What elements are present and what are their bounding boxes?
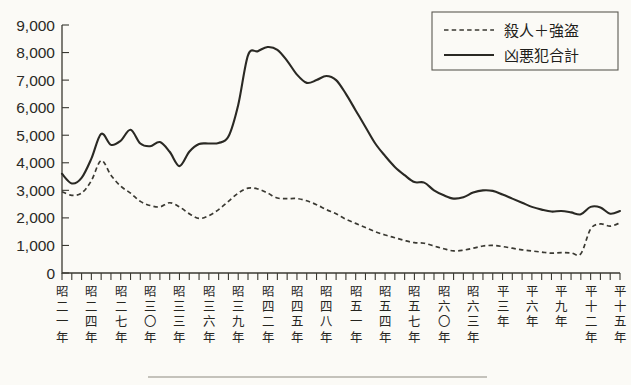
x-axis-tick-label-char: 平 <box>614 284 626 299</box>
x-axis-tick-label-char: 七 <box>115 314 127 329</box>
x-axis-tick-label-char: 年 <box>144 330 156 345</box>
x-axis-tick-label-char: 三 <box>467 314 479 329</box>
x-axis-tick-label: 昭二七年 <box>115 284 127 345</box>
x-axis-tick-label-char: 年 <box>555 314 567 329</box>
x-axis-tick-label-char: 昭 <box>173 284 185 299</box>
x-axis-tick-label: 昭五一年 <box>350 284 362 345</box>
x-axis-tick-label: 昭三六年 <box>203 284 215 345</box>
x-axis-tick-label-char: 四 <box>262 299 274 314</box>
x-axis-tick-label: 昭四五年 <box>291 284 303 345</box>
x-axis-tick-label-char: 年 <box>614 330 626 345</box>
x-axis-tick-label: 昭三九年 <box>232 284 245 345</box>
x-axis-tick-label-char: 二 <box>115 299 127 314</box>
y-axis-tick-label: 5,000 <box>16 127 55 144</box>
x-axis-tick-label-char: 五 <box>291 314 303 329</box>
x-axis-tick-label: 昭五四年 <box>379 284 391 345</box>
x-axis-tick-label-char: 二 <box>85 299 97 314</box>
x-axis-tick-label-char: 三 <box>173 299 185 314</box>
x-axis-tick-label-char: 九 <box>555 299 568 314</box>
x-axis-tick-label: 平十二年 <box>585 284 597 345</box>
x-axis-tick-label-char: 昭 <box>56 284 68 299</box>
y-axis-tick-label: 2,000 <box>16 209 55 226</box>
x-axis-tick-label-char: 昭 <box>320 284 332 299</box>
x-axis-tick-labels: 昭二一年昭二四年昭二七年昭三〇年昭三三年昭三六年昭三九年昭四二年昭四五年昭四八年… <box>56 284 626 345</box>
x-axis-tick-label: 平三年 <box>497 284 509 329</box>
x-axis-tick-label-char: 年 <box>203 330 215 345</box>
chart-legend: 殺人＋強盗凶悪犯合計 <box>432 12 618 70</box>
x-axis-tick-label-char: 年 <box>56 330 68 345</box>
x-axis-tick-label: 昭四二年 <box>262 284 274 345</box>
x-axis-tick-label-char: 年 <box>173 330 185 345</box>
x-axis-tick-label-char: 年 <box>408 330 420 345</box>
x-axis-tick-marks <box>62 273 620 280</box>
x-axis-tick-label: 昭四八年 <box>320 284 333 345</box>
x-axis-tick-label-char: 平 <box>585 284 597 299</box>
x-axis-tick-label-char: 年 <box>320 330 332 345</box>
x-axis-tick-label-char: 五 <box>379 299 391 314</box>
x-axis-tick-label-char: 年 <box>291 330 303 345</box>
x-axis-tick-label-char: 六 <box>526 299 538 314</box>
x-axis-tick-label-char: 昭 <box>467 284 479 299</box>
crime-statistics-line-chart: 9,0008,0007,0006,0005,0004,0003,0002,000… <box>0 0 631 385</box>
y-axis-tick-label: 0 <box>46 265 55 282</box>
x-axis-tick-label: 昭三〇年 <box>144 284 156 345</box>
x-axis-tick-label-char: 昭 <box>438 284 450 299</box>
x-axis-tick-label-char: 昭 <box>350 284 362 299</box>
x-axis-tick-label-char: 平 <box>526 284 538 299</box>
x-axis-tick-label-char: 三 <box>144 299 156 314</box>
x-axis-tick-label-char: 年 <box>379 330 391 345</box>
x-axis-tick-label-char: 〇 <box>438 314 450 329</box>
legend-item-label: 凶悪犯合計 <box>504 47 579 65</box>
y-axis-tick-marks <box>62 25 69 273</box>
x-axis-tick-label: 昭二四年 <box>85 284 97 345</box>
x-axis-tick-label-char: 平 <box>497 284 509 299</box>
x-axis-tick-label-char: 昭 <box>232 284 244 299</box>
x-axis-tick-label-char: 年 <box>350 330 362 345</box>
x-axis-tick-label-char: 六 <box>467 299 479 314</box>
y-axis-tick-labels: 9,0008,0007,0006,0005,0004,0003,0002,000… <box>16 17 55 282</box>
x-axis-tick-label-char: 年 <box>526 314 538 329</box>
x-axis-tick-label-char: 年 <box>115 330 127 345</box>
y-axis-tick-label: 1,000 <box>16 237 55 254</box>
x-axis-tick-label-char: 昭 <box>115 284 127 299</box>
x-axis-tick-label-char: 三 <box>232 299 244 314</box>
legend-item-label: 殺人＋強盗 <box>504 22 579 40</box>
x-axis-tick-label-char: 三 <box>173 314 185 329</box>
x-axis-tick-label: 昭六三年 <box>467 284 479 345</box>
x-axis-tick-label-char: 四 <box>85 314 97 329</box>
x-axis-tick-label-char: 八 <box>320 314 333 329</box>
x-axis-tick-label-char: 昭 <box>379 284 391 299</box>
x-axis-tick-label-char: 六 <box>203 314 215 329</box>
x-axis-tick-label-char: 六 <box>438 299 450 314</box>
x-axis-tick-label: 昭五七年 <box>408 284 420 345</box>
x-axis-tick-label-char: 年 <box>585 330 597 345</box>
x-axis-tick-label: 平九年 <box>555 284 568 329</box>
x-axis-tick-label-char: 昭 <box>291 284 303 299</box>
x-axis-tick-label: 平六年 <box>526 284 538 329</box>
chart-page: 9,0008,0007,0006,0005,0004,0003,0002,000… <box>0 0 631 385</box>
x-axis-tick-label-char: 二 <box>262 314 274 329</box>
x-axis-tick-label-char: 二 <box>585 314 597 329</box>
x-axis-tick-label: 昭六〇年 <box>438 284 450 345</box>
x-axis-tick-label-char: 十 <box>585 299 597 314</box>
x-axis-tick-label-char: 〇 <box>144 314 156 329</box>
x-axis-tick-label-char: 七 <box>408 314 420 329</box>
x-axis-tick-label: 平十五年 <box>614 284 626 345</box>
x-axis-tick-label-char: 年 <box>232 330 244 345</box>
x-axis-tick-label-char: 三 <box>497 299 509 314</box>
x-axis-tick-label-char: 五 <box>350 299 362 314</box>
x-axis-tick-label-char: 昭 <box>262 284 274 299</box>
x-axis-tick-label-char: 四 <box>379 314 391 329</box>
x-axis-tick-label-char: 平 <box>555 284 567 299</box>
x-axis-tick-label-char: 年 <box>497 314 509 329</box>
y-axis-tick-label: 3,000 <box>16 182 55 199</box>
y-axis-tick-label: 4,000 <box>16 154 55 171</box>
x-axis-tick-label-char: 四 <box>291 299 303 314</box>
x-axis-tick-label-char: 五 <box>408 299 420 314</box>
x-axis-tick-label-char: 四 <box>320 299 332 314</box>
x-axis-tick-label-char: 昭 <box>408 284 420 299</box>
y-axis-tick-label: 9,000 <box>16 17 55 34</box>
x-axis-tick-label-char: 年 <box>85 330 97 345</box>
x-axis-tick-label-char: 三 <box>203 299 215 314</box>
x-axis-tick-label-char: 年 <box>262 330 274 345</box>
